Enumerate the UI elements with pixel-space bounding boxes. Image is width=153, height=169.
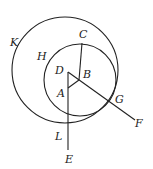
label-h: H xyxy=(36,50,47,63)
label-k: K xyxy=(9,36,19,49)
line-a-b xyxy=(68,80,79,88)
label-b: B xyxy=(82,68,91,81)
geometry-diagram: K C H D B A G F L E xyxy=(0,0,153,169)
label-e: E xyxy=(64,153,73,166)
label-f: F xyxy=(134,117,143,130)
label-a: A xyxy=(56,87,65,100)
label-g: G xyxy=(115,93,124,106)
label-c: C xyxy=(79,28,88,41)
line-d-f xyxy=(68,72,135,120)
line-b-c xyxy=(79,43,82,80)
label-d: D xyxy=(54,64,64,77)
label-l: L xyxy=(54,130,62,143)
large-circle-k xyxy=(12,17,118,123)
